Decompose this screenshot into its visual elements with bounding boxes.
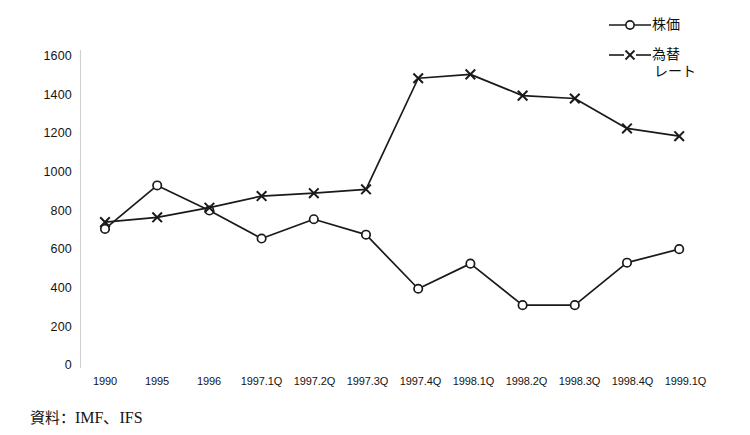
ytick-label: 800	[20, 204, 72, 218]
xtick-label-1997-1q: 1997.1Q	[235, 375, 288, 387]
legend-label-stock-price: 株価	[652, 16, 680, 33]
ytick-label: 1600	[20, 49, 72, 63]
source-note-label: 資料：	[30, 409, 75, 427]
data-point-marker-circle	[623, 258, 631, 266]
xtick-label-1998-1q: 1998.1Q	[447, 375, 500, 387]
xtick-label-1999-1q: 1999.1Q	[659, 375, 712, 387]
series-exchange-rate	[100, 70, 684, 227]
legend-label-exchange-rate: 為替 レート	[652, 46, 696, 80]
legend-label-exchange-rate-line1: 為替	[652, 46, 680, 62]
chart-container: 1600 1400 1200 1000 800 600 400 200 0 19…	[0, 0, 750, 435]
ytick-label: 0	[20, 358, 72, 372]
ytick-label: 1200	[20, 126, 72, 140]
ytick-label: 200	[20, 320, 72, 334]
legend-marker-x-icon	[608, 47, 652, 63]
data-point-marker-circle	[362, 230, 370, 238]
data-point-marker-circle	[310, 215, 318, 223]
ytick-label: 400	[20, 281, 72, 295]
series-layer	[100, 70, 684, 310]
data-point-marker-circle	[518, 301, 526, 309]
xtick-label-1998-4q: 1998.4Q	[606, 375, 659, 387]
series-line	[105, 185, 679, 305]
xtick-label-1996: 1996	[183, 375, 235, 387]
source-note-value: IMF、IFS	[75, 409, 143, 426]
series-stock-price	[101, 181, 684, 309]
ytick-label: 1000	[20, 165, 72, 179]
data-point-marker-circle	[257, 234, 265, 242]
data-point-marker-circle	[675, 245, 683, 253]
legend-label-exchange-rate-line2: レート	[652, 63, 696, 80]
data-point-marker-circle	[571, 301, 579, 309]
xtick-label-1997-3q: 1997.3Q	[341, 375, 394, 387]
ytick-label: 600	[20, 242, 72, 256]
series-line	[105, 74, 679, 222]
xtick-label-1990: 1990	[79, 375, 131, 387]
xtick-label-1998-2q: 1998.2Q	[500, 375, 553, 387]
xtick-label-1998-3q: 1998.3Q	[553, 375, 606, 387]
source-note: 資料：IMF、IFS	[30, 404, 143, 428]
legend-marker-circle-icon	[608, 17, 652, 33]
xtick-label-1997-2q: 1997.2Q	[288, 375, 341, 387]
chart-legend: 株価 為替 レート	[604, 10, 750, 72]
legend-item-stock-price[interactable]: 株価	[608, 16, 748, 34]
legend-item-exchange-rate[interactable]: 為替 レート	[608, 46, 748, 64]
xtick-label-1997-4q: 1997.4Q	[394, 375, 447, 387]
xtick-label-1995: 1995	[131, 375, 183, 387]
ytick-label: 1400	[20, 88, 72, 102]
data-point-marker-circle	[466, 259, 474, 267]
data-point-marker-circle	[414, 285, 422, 293]
data-point-marker-circle	[153, 181, 161, 189]
